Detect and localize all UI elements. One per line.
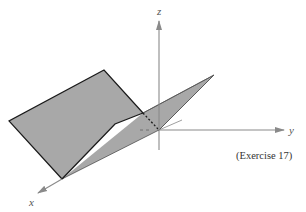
3d-planes-diagram — [0, 0, 306, 212]
exercise-caption: (Exercise 17) — [236, 151, 292, 162]
x-axis — [38, 179, 62, 193]
x-axis-label: x — [29, 197, 34, 208]
z-axis-label: z — [157, 6, 161, 17]
y-axis-label: y — [289, 125, 294, 136]
left-plane — [9, 70, 143, 179]
